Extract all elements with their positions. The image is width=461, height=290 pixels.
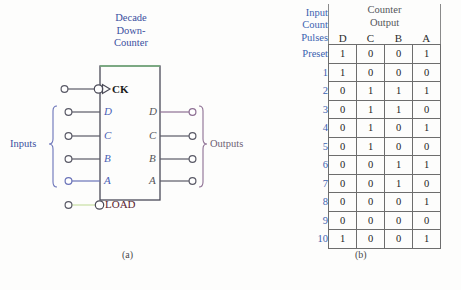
bit-cell: 1 [385,174,413,193]
bit-cell: 1 [385,82,413,101]
bit-cell: 1 [357,100,385,119]
table-row: 11000 [282,63,441,82]
bit-cell: 0 [329,174,357,193]
input-pin-label-a: A [104,174,111,186]
bit-cell: 0 [357,193,385,212]
output-pin-label-a: A [149,174,156,186]
pulse-cell: 8 [282,193,329,212]
bit-cell: 1 [413,45,441,64]
bit-cell: 0 [357,45,385,64]
outputs-brace [199,106,207,187]
pulse-cell: 7 [282,174,329,193]
bit-cell: 0 [357,211,385,230]
load-inversion-bubble-icon [95,201,103,209]
bit-cell: 1 [329,230,357,249]
bit-cell: 0 [329,100,357,119]
input-pin-label-c: C [104,129,111,141]
terminal-input-a [65,178,72,185]
column-header-c: C [357,29,385,44]
column-header-a: A [413,29,441,44]
counter-table-head: Input Count Pulses Counter Output D C B … [282,4,441,45]
pulse-cell: Preset [282,45,329,64]
pulse-cell: 10 [282,230,329,249]
bit-cell: 1 [413,230,441,249]
table-row: 80001 [282,193,441,212]
bit-cell: 0 [357,230,385,249]
bit-cell: 0 [413,137,441,156]
bit-cell: 1 [357,82,385,101]
table-row: 20111 [282,82,441,101]
input-count-pulses-header: Input Count Pulses [282,4,329,44]
bit-cell: 0 [329,193,357,212]
terminal-load [65,202,72,209]
ck-pin-label: CK [112,83,129,95]
input-pin-label-d: D [104,105,112,117]
counter-table-body: Preset1001110002011130110401015010060011… [282,45,441,249]
bit-cell: 0 [357,156,385,175]
panel-b-caption: (b) [355,249,367,260]
terminal-output-c [189,133,196,140]
bit-cell: 0 [413,100,441,119]
bit-cell: 1 [413,82,441,101]
figure-panel-b: Input Count Pulses Counter Output D C B … [255,0,461,290]
table-row: 30110 [282,100,441,119]
terminal-output-b [189,156,196,163]
table-row: 90000 [282,211,441,230]
output-pin-label-c: C [149,129,156,141]
output-pin-label-d: D [149,105,157,117]
bit-cell: 0 [385,45,413,64]
pulse-cell: 9 [282,211,329,230]
pulse-cell: 1 [282,63,329,82]
bit-cell: 1 [413,156,441,175]
terminal-output-a [189,178,196,185]
table-row: Preset1001 [282,45,441,64]
bit-cell: 1 [413,119,441,138]
terminal-input-b [65,156,72,163]
counter-output-header: Counter Output [329,4,441,29]
counter-output-line-1: Counter [329,4,440,17]
bit-cell: 1 [329,63,357,82]
table-row: 40101 [282,119,441,138]
pulse-cell: 2 [282,82,329,101]
terminal-input-d [65,109,72,116]
bit-cell: 0 [413,63,441,82]
bit-cell: 0 [357,63,385,82]
bit-cell: 1 [385,100,413,119]
bit-cell: 0 [413,174,441,193]
bit-cell: 1 [329,45,357,64]
input-count-pulses-line-3: Pulses [282,32,328,45]
output-pin-label-b: B [149,152,156,164]
bit-cell: 0 [329,137,357,156]
bit-cell: 0 [413,211,441,230]
table-row: 60011 [282,156,441,175]
input-pin-label-b: B [104,152,111,164]
ck-inversion-bubble-icon [94,85,102,93]
load-pin-label: LOAD [105,198,136,210]
bit-cell: 0 [329,156,357,175]
terminal-input-c [65,133,72,140]
pulse-cell: 4 [282,119,329,138]
pulse-cell: 6 [282,156,329,175]
panel-a-caption: (a) [122,249,133,260]
bit-cell: 0 [385,137,413,156]
terminal-output-d [189,109,196,116]
bit-cell: 0 [385,193,413,212]
table-header-row-group: Input Count Pulses Counter Output [282,4,441,29]
pulse-cell: 3 [282,100,329,119]
bit-cell: 1 [385,156,413,175]
column-header-b: B [385,29,413,44]
table-row: 70010 [282,174,441,193]
column-header-d: D [329,29,357,44]
table-row: 101001 [282,230,441,249]
bit-cell: 1 [357,137,385,156]
counter-output-table: Input Count Pulses Counter Output D C B … [282,4,441,249]
outputs-group-label: Outputs [210,138,243,149]
bit-cell: 0 [329,211,357,230]
bit-cell: 0 [385,211,413,230]
input-count-pulses-line-2: Count [282,19,328,32]
bit-cell: 1 [357,119,385,138]
bit-cell: 1 [413,193,441,212]
counter-block-title: Decade Down- Counter [86,12,176,50]
bit-cell: 0 [385,230,413,249]
inputs-group-label: Inputs [10,138,36,149]
